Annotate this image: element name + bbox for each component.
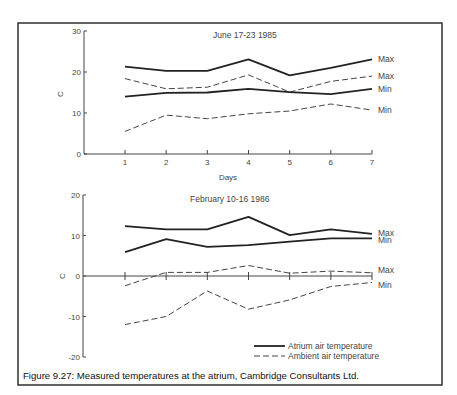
x-tick-label: 6 bbox=[329, 158, 334, 167]
y-ticks-june: 0102030 bbox=[72, 27, 87, 159]
series-line-atrium-min bbox=[125, 238, 372, 252]
series-end-label: Min bbox=[378, 84, 392, 94]
series-end-label: Max bbox=[378, 54, 395, 64]
y-tick-label: 20 bbox=[72, 68, 81, 77]
x-tick-label: 5 bbox=[287, 158, 292, 167]
series-lines-june bbox=[125, 59, 372, 131]
x-tick-label: 3 bbox=[205, 158, 210, 167]
x-tick-label: 1 bbox=[123, 158, 128, 167]
legend-atrium-label: Atrium air temperature bbox=[288, 341, 373, 351]
chart-title-june: June 17-23 1985 bbox=[213, 30, 277, 40]
figure: June 17-23 1985 C Days 0102030 1234567 M… bbox=[0, 0, 457, 395]
x-axis-label-june: Days bbox=[219, 173, 237, 182]
x-tick-label: 4 bbox=[246, 158, 251, 167]
series-end-label: Max bbox=[378, 265, 395, 275]
figure-caption: Figure 9.27: Measured temperatures at th… bbox=[23, 370, 359, 381]
x-tick-label: 7 bbox=[370, 158, 375, 167]
y-tick-label: 10 bbox=[71, 232, 80, 241]
series-end-label: Min bbox=[378, 235, 392, 245]
y-tick-label: 10 bbox=[72, 109, 81, 118]
chart-june: June 17-23 1985 C Days 0102030 1234567 M… bbox=[56, 27, 395, 182]
x-tick-label: 2 bbox=[164, 158, 169, 167]
legend-ambient-label: Ambient air temperature bbox=[288, 351, 379, 361]
series-line-atrium-max bbox=[125, 59, 372, 75]
series-end-label: Max bbox=[378, 71, 395, 81]
y-tick-label: 0 bbox=[77, 150, 82, 159]
legend: Atrium air temperature Ambient air tempe… bbox=[254, 341, 379, 361]
chart-title-february: February 10-16 1986 bbox=[190, 194, 270, 204]
series-labels-february: MaxMinMaxMin bbox=[378, 228, 395, 291]
y-tick-label: 0 bbox=[76, 272, 81, 281]
series-line-ambient-min bbox=[125, 283, 372, 325]
y-tick-label: -10 bbox=[68, 313, 80, 322]
series-labels-june: MaxMaxMinMin bbox=[378, 54, 395, 115]
y-axis-label-february: C bbox=[58, 273, 67, 279]
series-line-ambient-min bbox=[125, 104, 372, 131]
series-end-label: Min bbox=[378, 105, 392, 115]
y-tick-label: 30 bbox=[72, 27, 81, 36]
y-tick-label: -20 bbox=[68, 353, 80, 362]
series-end-label: Min bbox=[378, 280, 392, 290]
chart-february: February 10-16 1986 C -20-1001020 MaxMin… bbox=[58, 191, 395, 362]
x-ticks-june: 1234567 bbox=[123, 150, 375, 167]
series-lines-february bbox=[125, 217, 372, 325]
series-line-atrium-min bbox=[125, 89, 372, 97]
y-axis-label-june: C bbox=[56, 91, 65, 97]
series-line-atrium-max bbox=[125, 217, 372, 235]
y-tick-label: 20 bbox=[71, 191, 80, 200]
